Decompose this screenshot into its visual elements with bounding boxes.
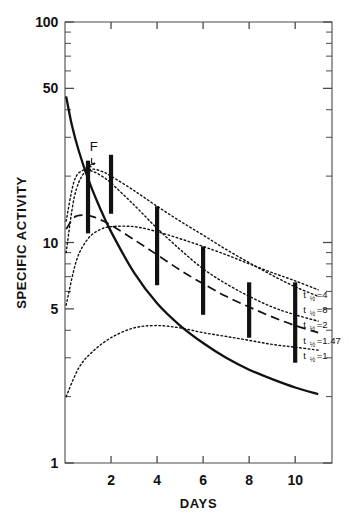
legend-row: t½=1.47 [303, 335, 341, 348]
plot-border [65, 22, 332, 463]
x-tick-label: 10 [288, 472, 304, 488]
legend-row: t½=8 [303, 304, 327, 317]
plot-frame [65, 22, 332, 463]
y-axis-title: SPECIFIC ACTIVITY [14, 176, 29, 309]
specific-activity-plot: 100501051 246810 F t½=4t½=8t½=2t½=1.47t½… [0, 0, 357, 531]
x-tick-label: 4 [153, 472, 161, 488]
y-tick-label: 50 [43, 80, 59, 96]
x-tick-label: 6 [199, 472, 207, 488]
legend-label-half: ½ [310, 295, 316, 302]
legend-row: t½=1 [303, 350, 327, 363]
legend-label-half: ½ [310, 325, 316, 332]
legend-label-t: t [303, 319, 306, 330]
legend-label-value: =2 [317, 319, 328, 330]
y-tick-label: 5 [50, 301, 58, 317]
series-curve-4 [66, 215, 318, 332]
series-curve-1 [66, 169, 318, 296]
x-axis-title: DAYS [180, 496, 217, 511]
x-tick-label: 8 [245, 472, 253, 488]
series-legend: t½=4t½=8t½=2t½=1.47t½=1 [303, 289, 341, 363]
legend-row: t½=2 [303, 319, 327, 332]
series-curve-3 [66, 169, 318, 321]
legend-label-half: ½ [310, 310, 316, 317]
legend-label-t: t [303, 304, 306, 315]
y-tick-label: 1 [50, 455, 58, 471]
annotation-label-0: F [90, 139, 98, 154]
chart-figure: 100501051 246810 F t½=4t½=8t½=2t½=1.47t½… [0, 0, 357, 531]
legend-label-half: ½ [310, 356, 316, 363]
legend-label-t: t [303, 289, 306, 300]
y-tick-label: 100 [35, 14, 58, 30]
legend-label-value: =8 [317, 304, 328, 315]
legend-label-value: =1.47 [317, 335, 341, 346]
legend-label-half: ½ [310, 341, 316, 348]
series-curve-0 [66, 96, 318, 394]
y-tick-label: 10 [43, 235, 59, 251]
legend-label-t: t [303, 350, 306, 361]
x-tick-label: 2 [107, 472, 115, 488]
legend-label-t: t [303, 335, 306, 346]
data-curves [66, 96, 318, 396]
legend-label-value: =1 [317, 350, 328, 361]
y-axis-ticks: 100501051 [35, 14, 332, 471]
legend-label-value: =4 [317, 289, 328, 300]
series-curve-2 [66, 226, 318, 305]
